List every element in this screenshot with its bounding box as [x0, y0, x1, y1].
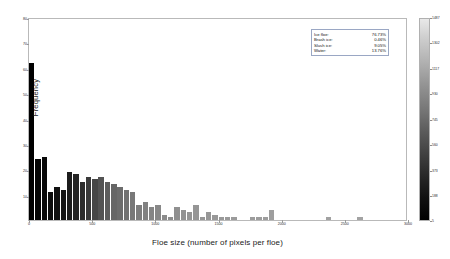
- colorbar-tick-mark: [430, 94, 432, 95]
- colorbar-tick-mark: [430, 43, 432, 44]
- colorbar-tick-label: 745: [432, 118, 438, 122]
- histogram-bar: [326, 217, 331, 220]
- x-axis-tick-mark: [92, 220, 93, 223]
- figure-canvas: Frequency 102030405060708005001000150020…: [0, 0, 450, 259]
- y-axis-tick-mark: [27, 19, 30, 20]
- x-axis-title: Floe size (number of pixels per floe): [28, 238, 407, 247]
- histogram-bar: [168, 217, 173, 220]
- histogram-bar: [61, 190, 66, 220]
- colorbar-tick-label: 5: [432, 219, 434, 223]
- histogram-bar: [86, 177, 91, 220]
- colorbar-tick-label: 1302: [432, 41, 440, 45]
- histogram-bar: [143, 202, 148, 220]
- histogram-bar: [80, 182, 85, 220]
- colorbar-tick-label: 1487: [432, 16, 440, 20]
- x-axis-tick-mark: [282, 220, 283, 223]
- histogram-bar: [42, 157, 47, 220]
- colorbar-tick-label: 373: [432, 169, 438, 173]
- histogram-bar: [111, 184, 116, 220]
- histogram-bar: [130, 192, 135, 220]
- x-axis-tick-mark: [219, 220, 220, 223]
- histogram-bar: [250, 217, 255, 220]
- histogram-bar: [117, 187, 122, 220]
- y-axis-tick-mark: [27, 70, 30, 71]
- legend-row: Water:13.76%: [314, 48, 386, 54]
- composition-legend: Ice floe:76.73%Brash ice:0.46%Slush ice:…: [311, 29, 389, 56]
- colorbar: 1487130211179307455603731885: [419, 18, 430, 221]
- colorbar-tick-mark: [430, 145, 432, 146]
- histogram-bar: [124, 190, 129, 220]
- x-axis-tick-label: 2500: [341, 222, 349, 226]
- histogram-bar: [206, 212, 211, 220]
- histogram-bar: [136, 205, 141, 220]
- histogram-bar: [225, 217, 230, 220]
- x-axis-tick-label: 500: [89, 222, 95, 226]
- x-axis-tick-label: 0: [28, 222, 30, 226]
- x-axis-tick-label: 1500: [215, 222, 223, 226]
- histogram-bar: [162, 215, 167, 220]
- histogram-bar: [73, 174, 78, 220]
- histogram-bar: [357, 217, 362, 220]
- colorbar-tick-mark: [430, 171, 432, 172]
- colorbar-tick-label: 188: [432, 194, 438, 198]
- colorbar-tick-mark: [430, 120, 432, 121]
- colorbar-tick-mark: [430, 196, 432, 197]
- colorbar-tick-label: 560: [432, 143, 438, 147]
- histogram-bar: [263, 217, 268, 220]
- histogram-bar: [98, 177, 103, 220]
- colorbar-tick-mark: [430, 221, 432, 222]
- x-axis-tick-mark: [155, 220, 156, 223]
- histogram-bar: [155, 205, 160, 220]
- legend-value: 13.76%: [372, 48, 386, 54]
- histogram-bar: [92, 179, 97, 220]
- colorbar-tick-label: 1117: [432, 67, 439, 71]
- x-axis-tick-mark: [408, 220, 409, 223]
- histogram-bar: [67, 172, 72, 220]
- histogram-bar: [54, 187, 59, 220]
- x-axis-tick-mark: [29, 220, 30, 223]
- histogram-bar: [193, 205, 198, 220]
- y-axis-tick-mark: [27, 95, 30, 96]
- histogram-bar: [105, 182, 110, 220]
- y-axis-tick-mark: [27, 121, 30, 122]
- histogram-bar: [269, 210, 274, 220]
- colorbar-tick-mark: [430, 18, 432, 19]
- histogram-bar: [187, 212, 192, 220]
- histogram-bar: [174, 207, 179, 220]
- histogram-bar: [212, 215, 217, 220]
- histogram-bar: [200, 217, 205, 220]
- colorbar-gradient: [419, 18, 430, 221]
- x-axis-tick-label: 2000: [278, 222, 286, 226]
- histogram-bar: [35, 159, 40, 220]
- colorbar-tick-mark: [430, 69, 432, 70]
- y-axis-title: Frequency: [31, 53, 40, 143]
- x-axis-tick-label: 3000: [404, 222, 412, 226]
- x-axis-tick-mark: [345, 220, 346, 223]
- y-axis-tick-mark: [27, 146, 30, 147]
- y-axis-tick-mark: [27, 197, 30, 198]
- histogram-bar: [48, 192, 53, 220]
- histogram-bar: [256, 217, 261, 220]
- histogram-bar: [149, 207, 154, 220]
- x-axis-tick-label: 1000: [151, 222, 159, 226]
- y-axis-tick-mark: [27, 171, 30, 172]
- colorbar-tick-label: 930: [432, 92, 438, 96]
- histogram-bar: [181, 210, 186, 220]
- legend-key: Water:: [314, 48, 330, 54]
- histogram-bar: [231, 217, 236, 220]
- y-axis-tick-mark: [27, 44, 30, 45]
